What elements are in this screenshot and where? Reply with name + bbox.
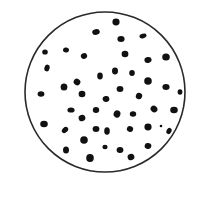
particle-dot — [162, 84, 169, 90]
particle-circle-diagram — [0, 0, 198, 199]
particle-dot — [93, 107, 99, 113]
particle-dot — [162, 53, 170, 60]
particle-dot — [178, 89, 183, 95]
particle-dot — [122, 51, 129, 57]
particle-dot — [42, 49, 48, 54]
particle-dot — [63, 146, 69, 153]
particle-dot — [67, 107, 74, 112]
particle-dot — [112, 68, 118, 75]
particle-dot — [170, 107, 178, 113]
diagram-canvas — [0, 0, 198, 199]
particle-dot — [40, 121, 48, 127]
background — [0, 0, 198, 199]
particle-dot — [86, 154, 94, 162]
particle-dot — [104, 127, 110, 135]
particle-dot — [160, 125, 163, 128]
particle-dot — [117, 147, 124, 153]
particle-dot — [129, 70, 135, 76]
particle-dot — [117, 36, 124, 42]
particle-dot — [117, 86, 124, 92]
particle-dot — [80, 136, 88, 144]
particle-dot — [144, 77, 152, 85]
particle-dot — [97, 73, 103, 80]
particle-dot — [93, 126, 100, 132]
particle-dot — [112, 19, 119, 26]
particle-dot — [38, 91, 45, 97]
particle-dot — [61, 83, 68, 90]
particle-dot — [144, 124, 151, 131]
particle-dot — [79, 91, 86, 97]
particle-dot — [102, 145, 107, 149]
particle-dot — [130, 111, 136, 117]
